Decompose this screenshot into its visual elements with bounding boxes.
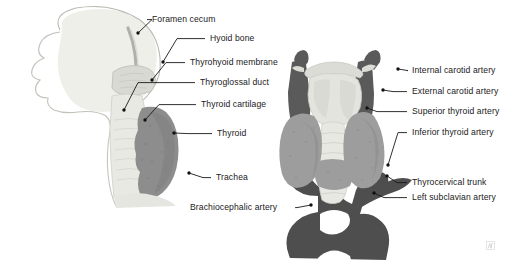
leader-dot [396, 67, 399, 70]
label-thyrohyoid-membrane: Thyrohyoid membrane [190, 57, 278, 67]
label-brachiocephalic: Brachiocephalic artery [190, 202, 277, 212]
frontal-thyroid-vessels [279, 50, 412, 264]
leader-dot [365, 106, 368, 109]
leader-dot [161, 60, 164, 63]
leader-dot [309, 203, 312, 206]
neck-base-shadow [114, 193, 176, 208]
leader-dot [143, 118, 146, 121]
image-watermark [485, 240, 496, 251]
label-superior-thyroid: Superior thyroid artery [412, 106, 499, 116]
leader-line [383, 90, 407, 92]
figure-canvas: Foramen cecumHyoid boneThyrohyoid membra… [0, 0, 516, 264]
leader-dot [386, 163, 389, 166]
label-foramen-cecum: Foramen cecum [152, 14, 215, 24]
leader-dot [150, 78, 153, 81]
label-hyoid-bone: Hyoid bone [210, 33, 254, 43]
leader-dot [187, 171, 190, 174]
label-trachea: Trachea [216, 172, 248, 182]
leader-line [388, 133, 407, 165]
leader-line [152, 63, 185, 80]
label-thyroglossal-duct: Thyroglossal duct [200, 77, 269, 87]
thyroid-isthmus [314, 159, 353, 190]
leader-dot [122, 108, 125, 111]
label-external-carotid: External carotid artery [412, 86, 498, 96]
leader-dot [172, 131, 175, 134]
leader-dot [372, 191, 375, 194]
label-thyroid: Thyroid [217, 128, 246, 138]
leader-dot [385, 174, 388, 177]
label-left-subclavian: Left subclavian artery [412, 192, 496, 202]
label-thyrocervical-trunk: Thyrocervical trunk [412, 177, 487, 187]
label-thyroid-cartilage: Thyroid cartilage [201, 99, 266, 109]
leader-line [174, 133, 212, 134]
label-inferior-thyroid: Inferior thyroid artery [412, 127, 494, 137]
leader-dot [136, 31, 139, 34]
leader-dot [381, 88, 384, 91]
leader-line [295, 205, 311, 208]
label-internal-carotid: Internal carotid artery [412, 65, 496, 75]
leader-line [189, 173, 211, 178]
